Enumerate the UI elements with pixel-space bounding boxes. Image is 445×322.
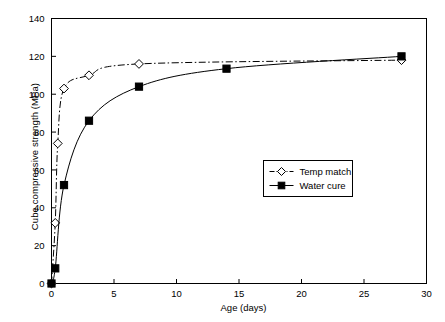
chart-figure: 051015202530020406080100120140 Temp matc… — [0, 0, 445, 322]
marker-0-4 — [85, 71, 94, 80]
x-tick-label-4: 20 — [296, 288, 307, 299]
marker-1-4 — [135, 83, 142, 90]
y-axis-title: Cube compressive strength (MPa) — [29, 47, 40, 267]
y-tick-label-0: 0 — [39, 278, 44, 289]
marker-1-1 — [52, 265, 59, 272]
legend-label-1: Water cure — [300, 180, 346, 191]
x-tick-label-1: 5 — [111, 288, 116, 299]
chart-canvas: 051015202530020406080100120140 Temp matc… — [0, 0, 445, 322]
legend-marker-1 — [278, 182, 285, 189]
y-tick-label-7: 140 — [29, 13, 45, 24]
x-tick-label-2: 10 — [171, 288, 182, 299]
marker-0-5 — [135, 60, 144, 69]
marker-0-3 — [60, 84, 69, 93]
legend-group: Temp matchWater cure — [264, 161, 353, 197]
marker-1-5 — [223, 65, 230, 72]
marker-1-2 — [60, 181, 67, 188]
x-tick-label-0: 0 — [49, 288, 54, 299]
axes-group: 051015202530020406080100120140 — [29, 13, 432, 298]
x-tick-label-5: 25 — [359, 288, 370, 299]
marker-0-2 — [53, 139, 62, 148]
legend-label-0: Temp match — [300, 166, 352, 177]
x-axis-title-text: Age (days) — [221, 302, 267, 313]
x-tick-label-3: 15 — [234, 288, 245, 299]
x-tick-label-6: 30 — [421, 288, 432, 299]
marker-1-3 — [85, 117, 92, 124]
x-axis-title: Age (days) — [0, 302, 445, 313]
marker-1-0 — [48, 280, 55, 287]
marker-1-6 — [398, 53, 405, 60]
